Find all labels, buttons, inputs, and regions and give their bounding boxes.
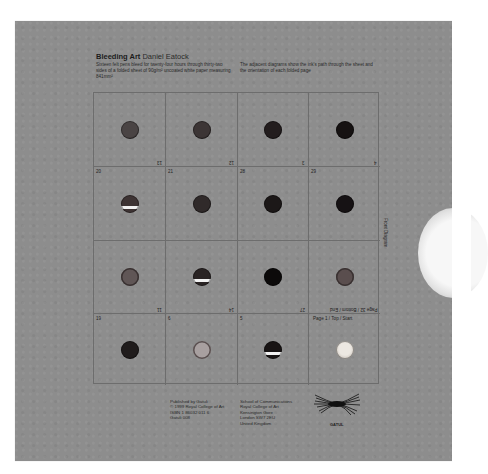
diagram-cell: 12	[166, 93, 238, 167]
page-number-bottom: 12	[229, 160, 234, 165]
page-number-bottom: 3	[302, 160, 305, 165]
page-number-bottom: Page 32 / Bottom / End	[330, 307, 378, 312]
ink-bleed-hole-icon	[264, 268, 282, 286]
page-number-top: 19	[96, 316, 101, 321]
ink-bleed-hole-icon	[193, 341, 211, 359]
page-number-top: 5	[240, 316, 243, 321]
background-margin	[452, 21, 471, 461]
ink-bleed-hole-icon	[336, 195, 354, 213]
front-diagram-label: Front Diagram	[383, 218, 388, 247]
diagram-cell: 6	[166, 314, 238, 385]
page-number-top: 21	[168, 169, 173, 174]
page-number-bottom: 27	[300, 307, 305, 312]
diagram-cell: 3	[238, 93, 309, 167]
ink-bleed-hole-icon	[121, 121, 139, 139]
author-name: Daniel Eatock	[142, 52, 188, 61]
ink-bleed-hole-icon	[193, 268, 211, 286]
ink-bleed-hole-icon	[336, 121, 354, 139]
diagram-cell: 13	[94, 93, 166, 167]
diagram-cell: 19	[94, 314, 166, 385]
diagram-cell: 21	[166, 167, 238, 241]
diagram-cell: 27	[238, 241, 309, 314]
fold-diagram-grid: 13123420212829111427Page 32 / Bottom / E…	[93, 92, 379, 384]
description-right: The adjacent diagrams show the ink's pat…	[240, 62, 375, 74]
cover-title: Bleeding Art Daniel Eatock	[96, 52, 189, 61]
diagram-cell: 14	[166, 241, 238, 314]
page-number-top: 28	[240, 169, 245, 174]
ink-bleed-hole-icon	[336, 341, 354, 359]
title-text: Bleeding Art	[96, 52, 140, 61]
page-number-top: Page 1 / Top / Start	[313, 316, 352, 321]
diagram-cell: 28	[238, 167, 309, 241]
page-number-top: 20	[96, 169, 101, 174]
diagram-cell: 11	[94, 241, 166, 314]
diagram-cell: Page 32 / Bottom / End	[309, 241, 380, 314]
page-number-top: 6	[168, 316, 171, 321]
ink-bleed-hole-icon	[336, 268, 354, 286]
publisher-info: Published by Gatuli © 1999 Royal College…	[170, 399, 224, 421]
description-left: Sixteen felt pens bleed for twenty-four …	[96, 62, 231, 80]
diagram-cell: 29	[309, 167, 380, 241]
ink-bleed-hole-icon	[264, 121, 282, 139]
page-number-bottom: 11	[157, 307, 162, 312]
ink-bleed-hole-icon	[264, 195, 282, 213]
publisher-logo-text: GATUL	[330, 422, 343, 427]
page-number-bottom: 14	[229, 307, 234, 312]
publisher-logo-icon	[313, 391, 361, 417]
diagram-cell: 20	[94, 167, 166, 241]
diagram-cell: Page 1 / Top / Start	[309, 314, 380, 385]
page-number-bottom: 4	[374, 160, 377, 165]
ink-bleed-hole-icon	[121, 268, 139, 286]
diagram-cell: 5	[238, 314, 309, 385]
page-number-top: 29	[311, 169, 316, 174]
page-number-bottom: 13	[157, 160, 162, 165]
ink-bleed-hole-icon	[121, 195, 139, 213]
ink-bleed-hole-icon	[264, 341, 282, 359]
ink-bleed-hole-icon	[193, 121, 211, 139]
address-info: School of Communications Royal College o…	[240, 399, 292, 426]
ink-bleed-hole-icon	[193, 195, 211, 213]
diagram-cell: 4	[309, 93, 380, 167]
ink-bleed-hole-icon	[121, 341, 139, 359]
